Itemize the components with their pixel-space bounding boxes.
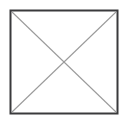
image-canvas: broken image placeholder bbox=[0, 0, 128, 124]
missing-image-placeholder bbox=[0, 0, 128, 124]
